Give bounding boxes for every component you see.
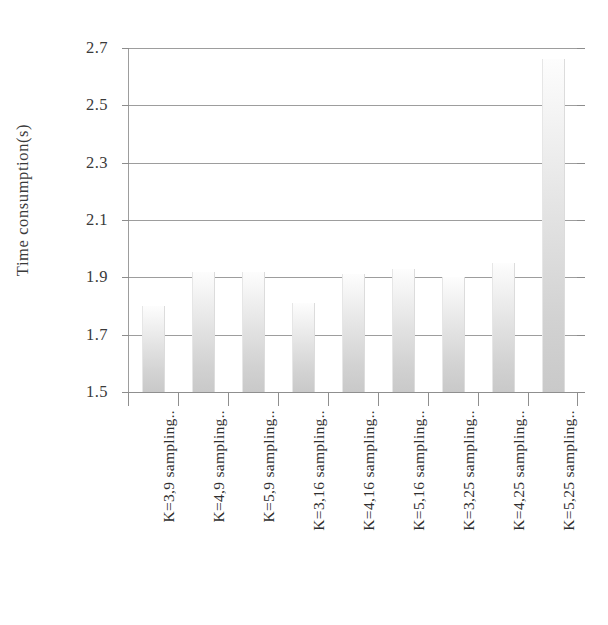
x-tick-mark xyxy=(428,393,429,406)
bar xyxy=(442,277,465,392)
y-tick-mark-right xyxy=(577,48,585,49)
bar xyxy=(342,274,365,392)
y-axis-title: Time consumption(s) xyxy=(0,0,46,400)
y-tick-label: 2.1 xyxy=(86,210,108,230)
x-tick-label: K=4,25 sampling.. xyxy=(510,410,528,610)
x-tick-label: K=4,9 sampling.. xyxy=(210,410,228,610)
y-tick-mark-right xyxy=(577,105,585,106)
y-axis-title-text: Time consumption(s) xyxy=(13,124,33,276)
x-tick-label: K=3,9 sampling.. xyxy=(160,410,178,610)
bar xyxy=(492,263,515,392)
x-tick-label: K=5,9 sampling.. xyxy=(260,410,278,610)
bar xyxy=(192,272,215,392)
y-tick-label: 1.9 xyxy=(86,267,108,287)
bar xyxy=(292,303,315,392)
y-tick-label: 1.7 xyxy=(86,325,108,345)
x-tick-mark xyxy=(228,393,229,406)
y-tick-label: 2.5 xyxy=(86,95,108,115)
bar xyxy=(142,306,165,392)
y-tick-mark-right xyxy=(577,163,585,164)
x-tick-mark xyxy=(278,393,279,406)
y-tick-mark-right xyxy=(577,277,585,278)
x-tick-mark xyxy=(478,393,479,406)
plot-area xyxy=(128,48,578,392)
chart-figure: Time consumption(s) 2.72.52.32.11.91.71.… xyxy=(0,0,608,625)
bar xyxy=(542,59,565,392)
bar xyxy=(392,269,415,392)
x-tick-label: K=5,16 sampling.. xyxy=(410,410,428,610)
x-axis-tick-labels: K=3,9 sampling..K=4,9 sampling..K=5,9 sa… xyxy=(128,410,578,620)
y-tick-label: 2.3 xyxy=(86,153,108,173)
x-tick-mark xyxy=(378,393,379,406)
x-tick-label: K=3,16 sampling.. xyxy=(310,410,328,610)
y-tick-mark-right xyxy=(577,335,585,336)
bars-group xyxy=(128,48,578,392)
x-axis xyxy=(128,392,578,408)
x-tick-label: K=5,25 sampling.. xyxy=(560,410,578,610)
x-axis-line xyxy=(128,392,578,393)
x-tick-mark xyxy=(128,393,129,406)
y-tick-mark-right xyxy=(577,392,585,393)
x-tick-label: K=3,25 sampling.. xyxy=(460,410,478,610)
y-tick-mark-right xyxy=(577,220,585,221)
bar xyxy=(242,272,265,392)
x-tick-mark xyxy=(328,393,329,406)
y-axis-tick-labels: 2.72.52.32.11.91.71.5 xyxy=(52,48,118,392)
y-tick-label: 1.5 xyxy=(86,382,108,402)
x-tick-label: K=4,16 sampling.. xyxy=(360,410,378,610)
x-tick-mark xyxy=(528,393,529,406)
x-tick-mark xyxy=(178,393,179,406)
y-tick-label: 2.7 xyxy=(86,38,108,58)
x-tick-mark xyxy=(577,393,578,406)
